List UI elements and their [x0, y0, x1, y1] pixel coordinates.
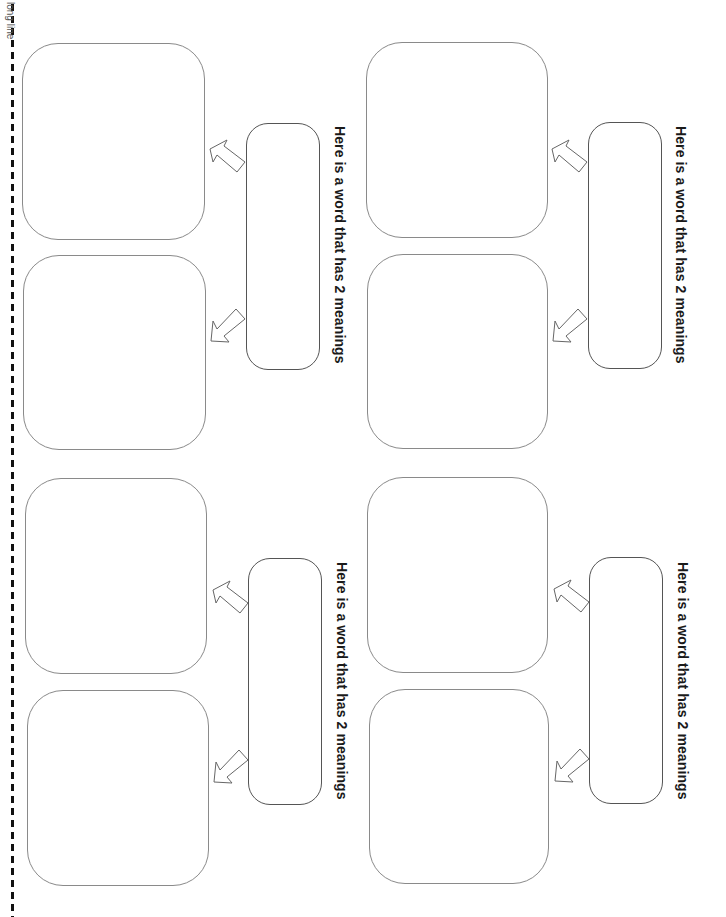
cut-line-label: long line	[4, 2, 16, 39]
prompt-text: Here is a word that has 2 meanings	[332, 126, 348, 364]
arrow-up-left-icon	[551, 578, 591, 618]
prompt-text: Here is a word that has 2 meanings	[673, 126, 689, 364]
word-box[interactable]	[588, 122, 662, 369]
arrow-down-left-icon	[210, 748, 250, 788]
arrow-up-left-icon	[210, 579, 250, 619]
word-box[interactable]	[589, 557, 663, 804]
dashed-cut-line	[11, 4, 14, 917]
meaning-box-1[interactable]	[366, 42, 548, 238]
word-box[interactable]	[248, 558, 322, 805]
meaning-box-1[interactable]	[25, 478, 207, 674]
prompt-text: Here is a word that has 2 meanings	[334, 562, 350, 800]
meaning-box-2[interactable]	[369, 689, 549, 884]
arrow-up-left-icon	[207, 138, 247, 178]
arrow-down-left-icon	[549, 307, 589, 347]
meaning-box-2[interactable]	[23, 255, 206, 450]
prompt-text: Here is a word that has 2 meanings	[675, 562, 691, 800]
meaning-box-1[interactable]	[367, 477, 548, 673]
word-box[interactable]	[246, 123, 320, 370]
arrow-down-left-icon	[551, 747, 591, 787]
meaning-box-2[interactable]	[27, 690, 209, 886]
arrow-down-left-icon	[207, 307, 247, 347]
arrow-up-left-icon	[549, 138, 589, 178]
meaning-box-1[interactable]	[22, 43, 205, 240]
meaning-box-2[interactable]	[367, 254, 548, 449]
